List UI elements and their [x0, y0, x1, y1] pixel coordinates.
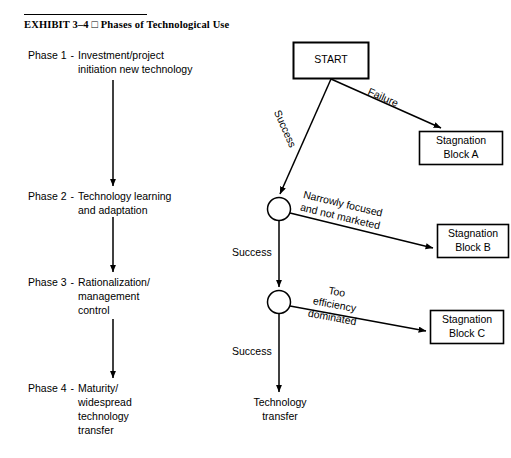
phase-2-key: Phase 2 — [28, 189, 67, 203]
phase-4-dash: - — [67, 381, 79, 395]
phase-item-3: Phase 3 - Rationalization/ management co… — [28, 275, 150, 317]
exhibit-rule-divider — [24, 14, 147, 15]
edge-label-success-2: Success — [232, 246, 272, 260]
phase-2-body: Technology learning and adaptation — [78, 189, 171, 217]
stagnation-c-label: Stagnation Block C — [430, 313, 504, 340]
phase-2-dash: - — [67, 189, 79, 203]
edge-label-success-3: Success — [232, 345, 272, 359]
exhibit-page: EXHIBIT 3–4 □ Phases of Technological Us… — [0, 0, 511, 458]
phase-item-4: Phase 4 - Maturity/ widespread technolog… — [28, 381, 132, 437]
phase-3-body: Rationalization/ management control — [78, 275, 150, 317]
phase-1-dash: - — [67, 48, 79, 62]
stagnation-a-label: Stagnation Block A — [419, 134, 503, 161]
exhibit-heading: EXHIBIT 3–4 □ Phases of Technological Us… — [24, 19, 229, 30]
phase-3-key: Phase 3 — [28, 275, 67, 289]
phase-3-dash: - — [67, 275, 79, 289]
terminal-label-technology-transfer: Technology transfer — [234, 396, 326, 423]
phase-4-key: Phase 4 — [28, 381, 67, 395]
decision-node-1-shape — [268, 198, 291, 221]
phase-1-body: Investment/project initiation new techno… — [78, 48, 192, 76]
phase-item-1: Phase 1 - Investment/project initiation … — [28, 48, 192, 76]
phase-item-2: Phase 2 - Technology learning and adapta… — [28, 189, 171, 217]
start-box-label: START — [293, 53, 369, 67]
decision-node-2-shape — [268, 291, 291, 314]
stagnation-b-label: Stagnation Block B — [437, 227, 509, 254]
phase-1-key: Phase 1 — [28, 48, 67, 62]
phase-4-body: Maturity/ widespread technology transfer — [78, 381, 132, 437]
